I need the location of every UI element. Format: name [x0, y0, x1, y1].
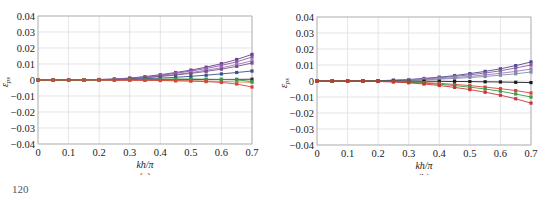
page-number: 120 — [12, 183, 29, 195]
data-marker — [235, 82, 238, 85]
data-marker — [529, 60, 532, 63]
y-tick-label: 0 — [30, 75, 35, 86]
data-marker — [484, 75, 487, 78]
data-marker — [529, 67, 532, 70]
data-marker — [453, 77, 456, 80]
data-marker — [529, 70, 532, 73]
data-marker — [392, 80, 395, 83]
x-tick-label: 0.6 — [494, 148, 507, 159]
y-tick-label: 0.03 — [296, 28, 314, 39]
data-marker — [250, 80, 253, 83]
data-marker — [67, 78, 70, 81]
x-tick-label: 0.4 — [154, 147, 168, 158]
data-marker — [98, 78, 101, 81]
data-marker — [361, 80, 364, 83]
x-tick-label: 0.1 — [341, 148, 354, 159]
y-tick-label: 0.04 — [17, 11, 36, 22]
data-marker — [235, 65, 238, 68]
x-tick-label: 0.1 — [62, 147, 75, 158]
y-tick-label: 0.01 — [296, 60, 314, 71]
x-tick-label: 0.2 — [372, 148, 385, 159]
data-marker — [484, 91, 487, 94]
y-tick-label: 0.03 — [17, 27, 35, 38]
x-tick-label: 0.5 — [463, 148, 476, 159]
chart-b-svg: 0.040.030.020.010−0.01−0.02−0.03−0.0400.… — [279, 0, 547, 175]
data-marker — [189, 72, 192, 75]
data-marker — [438, 84, 441, 87]
data-marker — [174, 79, 177, 82]
data-marker — [468, 88, 471, 91]
x-tick-label: 0 — [35, 147, 40, 158]
x-tick-label: 0.5 — [184, 147, 197, 158]
data-marker — [205, 80, 208, 83]
data-marker — [529, 63, 532, 66]
x-axis-label: kh/π — [136, 159, 154, 170]
data-marker — [453, 86, 456, 89]
y-tick-label: 0.01 — [17, 59, 35, 70]
data-marker — [189, 80, 192, 83]
data-marker — [235, 78, 238, 81]
data-marker — [529, 81, 532, 84]
data-marker — [220, 78, 223, 81]
data-marker — [159, 79, 162, 82]
data-marker — [331, 79, 334, 82]
y-tick-label: 0.02 — [17, 43, 35, 54]
y-axis-label-sub: ps — [4, 77, 12, 85]
data-marker — [499, 74, 502, 77]
y-tick-label: −0.03 — [11, 123, 35, 134]
y-tick-label: −0.01 — [11, 91, 35, 102]
chart-panel-b: 0.040.030.020.010−0.01−0.02−0.03−0.0400.… — [279, 0, 547, 175]
chart-a-svg: 0.040.030.020.010−0.01−0.02−0.03−0.0400.… — [0, 0, 275, 175]
data-marker — [407, 81, 410, 84]
data-marker — [220, 72, 223, 75]
y-tick-label: 0.02 — [296, 44, 314, 55]
data-marker — [82, 78, 85, 81]
data-marker — [113, 79, 116, 82]
y-tick-label: 0.04 — [296, 12, 315, 23]
y-axis-label: εps — [0, 77, 12, 87]
x-tick-label: 0.2 — [93, 147, 106, 158]
data-marker — [250, 69, 253, 72]
data-marker — [315, 79, 318, 82]
data-marker — [220, 68, 223, 71]
y-tick-label: −0.04 — [290, 140, 315, 151]
data-marker — [514, 97, 517, 100]
y-axis-label: εps — [279, 78, 291, 88]
x-tick-label: 0.7 — [524, 148, 537, 159]
x-tick-label: 0.3 — [402, 148, 415, 159]
data-marker — [514, 72, 517, 75]
y-tick-label: −0.03 — [290, 124, 314, 135]
chart-panel-a: 0.040.030.020.010−0.01−0.02−0.03−0.0400.… — [0, 0, 275, 175]
data-marker — [422, 82, 425, 85]
data-marker — [529, 91, 532, 94]
data-marker — [346, 79, 349, 82]
panel-label: (b) — [418, 172, 430, 175]
data-marker — [250, 85, 253, 88]
data-marker — [529, 101, 532, 104]
y-axis-label-sub: ps — [283, 78, 291, 86]
y-tick-label: −0.02 — [11, 107, 35, 118]
x-tick-label: 0 — [314, 148, 319, 159]
data-marker — [484, 80, 487, 83]
panel-label: (a) — [139, 171, 150, 175]
data-marker — [514, 92, 517, 95]
data-marker — [235, 71, 238, 74]
data-marker — [205, 74, 208, 77]
data-marker — [499, 90, 502, 93]
data-marker — [128, 79, 131, 82]
x-axis-label: kh/π — [415, 160, 433, 171]
y-tick-label: 0 — [309, 76, 314, 87]
data-marker — [514, 89, 517, 92]
data-marker — [52, 78, 55, 81]
data-marker — [36, 78, 39, 81]
x-tick-label: 0.7 — [245, 147, 258, 158]
data-marker — [529, 95, 532, 98]
x-tick-label: 0.6 — [215, 147, 228, 158]
data-marker — [514, 81, 517, 84]
data-marker — [220, 81, 223, 84]
data-marker — [468, 76, 471, 79]
data-marker — [499, 80, 502, 83]
data-marker — [499, 94, 502, 97]
data-marker — [468, 80, 471, 83]
data-marker — [514, 66, 517, 69]
